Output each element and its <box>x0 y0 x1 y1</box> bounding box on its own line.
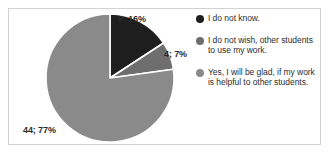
legend-item-0[interactable]: I do not know. <box>196 13 318 24</box>
chart-plot-area: 9; 16% 4; 7% 44; 77% I do not know. I do… <box>0 0 331 154</box>
pie-chart-card: 9; 16% 4; 7% 44; 77% I do not know. I do… <box>0 0 331 154</box>
pie-chart-graphic <box>40 12 185 146</box>
legend-swatch-icon-0 <box>196 15 204 23</box>
legend-swatch-icon-2 <box>196 69 204 77</box>
legend-label-2: Yes, I will be glad, if my work is helpf… <box>208 67 318 88</box>
legend-item-2[interactable]: Yes, I will be glad, if my work is helpf… <box>196 67 318 88</box>
legend-swatch-icon-1 <box>196 37 204 45</box>
legend-item-1[interactable]: I do not wish, other students to use my … <box>196 35 318 56</box>
chart-legend: I do not know. I do not wish, other stud… <box>196 13 318 99</box>
legend-label-0: I do not know. <box>208 13 260 24</box>
pie-slice-group <box>46 14 174 142</box>
legend-label-1: I do not wish, other students to use my … <box>208 35 318 56</box>
pie-data-label-0: 9; 16% <box>118 14 146 24</box>
pie-data-label-1: 4; 7% <box>164 49 187 59</box>
pie-data-label-2: 44; 77% <box>23 125 56 135</box>
